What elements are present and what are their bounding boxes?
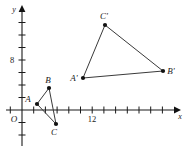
triangle-a-prime-b-prime-c-prime-edges bbox=[83, 25, 163, 78]
coordinate-plane-svg: A B C A' B' C' x y O 12 8 bbox=[0, 0, 190, 152]
vertex-label-b: B bbox=[45, 75, 51, 85]
y-tick-label-8: 8 bbox=[10, 55, 14, 65]
vertex-label-c: C bbox=[51, 127, 58, 137]
x-axis bbox=[6, 107, 181, 114]
vertex-c bbox=[54, 122, 58, 126]
y-axis-arrowhead bbox=[19, 5, 26, 12]
x-axis-label: x bbox=[177, 112, 182, 121]
x-tick-label-12: 12 bbox=[88, 114, 97, 124]
vertex-c-prime bbox=[103, 23, 107, 27]
figure-canvas: A B C A' B' C' x y O 12 8 bbox=[0, 0, 190, 152]
triangle-abc-edges bbox=[37, 88, 56, 124]
vertex-a bbox=[35, 102, 39, 106]
origin-label: O bbox=[11, 114, 18, 124]
y-axis-label: y bbox=[11, 5, 16, 14]
vertex-label-a-prime: A' bbox=[69, 73, 78, 83]
vertex-label-b-prime: B' bbox=[167, 66, 175, 76]
vertex-b-prime bbox=[161, 69, 165, 73]
vertex-a-prime bbox=[81, 76, 85, 80]
vertex-label-c-prime: C' bbox=[100, 11, 109, 21]
vertex-label-a: A bbox=[24, 94, 31, 104]
y-axis bbox=[19, 5, 26, 146]
vertex-b bbox=[47, 86, 51, 90]
